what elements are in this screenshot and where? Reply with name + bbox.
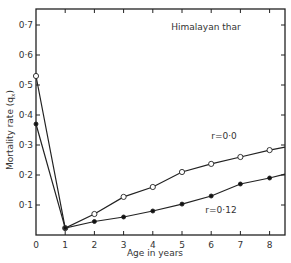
plot-border xyxy=(36,9,285,235)
filled-circle-marker xyxy=(268,176,272,180)
y-tick-label: 0·4 xyxy=(19,110,34,120)
filled-circle-marker xyxy=(34,122,38,126)
axis-ticks: 0123456780·10·20·30·40·50·60·7 xyxy=(19,9,285,250)
filled-circle-marker xyxy=(151,209,155,213)
open-circle-marker xyxy=(92,211,97,216)
filled-circle-marker xyxy=(238,182,242,186)
series-label-r0: r=0·0 xyxy=(211,131,237,141)
filled-circle-marker xyxy=(122,215,126,219)
filled-circle-marker xyxy=(92,220,96,224)
series-line-0 xyxy=(36,76,285,228)
series-line-1 xyxy=(36,124,285,228)
open-circle-marker xyxy=(121,194,126,199)
open-circle-marker xyxy=(179,169,184,174)
x-tick-label: 3 xyxy=(121,240,127,250)
series-lines xyxy=(33,73,285,230)
y-axis-label-main: Mortality rate (q xyxy=(5,97,15,170)
y-tick-label: 0·6 xyxy=(19,50,34,60)
x-axis-label: Age in years xyxy=(127,248,183,258)
x-tick-label: 6 xyxy=(208,240,214,250)
y-tick-label: 0·1 xyxy=(19,200,33,210)
y-axis-label-close: ) xyxy=(5,90,15,94)
filled-circle-marker xyxy=(180,202,184,206)
filled-circle-marker xyxy=(63,226,67,230)
x-tick-label: 1 xyxy=(62,240,68,250)
open-circle-marker xyxy=(150,184,155,189)
x-tick-label: 0 xyxy=(33,240,39,250)
open-circle-marker xyxy=(33,73,38,78)
series-label-r012: r=0·12 xyxy=(205,205,236,215)
chart-title: Himalayan thar xyxy=(171,22,241,32)
y-tick-label: 0·2 xyxy=(19,170,33,180)
x-tick-label: 7 xyxy=(238,240,244,250)
x-tick-label: 8 xyxy=(267,240,273,250)
filled-circle-marker xyxy=(209,194,213,198)
open-circle-marker xyxy=(209,161,214,166)
mortality-chart: 0123456780·10·20·30·40·50·60·7 Himalayan… xyxy=(0,0,291,263)
open-circle-marker xyxy=(267,148,272,153)
x-tick-label: 2 xyxy=(92,240,98,250)
plot-frame xyxy=(36,9,285,235)
y-tick-label: 0·3 xyxy=(19,140,33,150)
y-tick-label: 0·7 xyxy=(19,20,33,30)
y-tick-label: 0·5 xyxy=(19,80,33,90)
open-circle-marker xyxy=(238,154,243,159)
y-axis-label: Mortality rate (qx) xyxy=(5,90,16,170)
